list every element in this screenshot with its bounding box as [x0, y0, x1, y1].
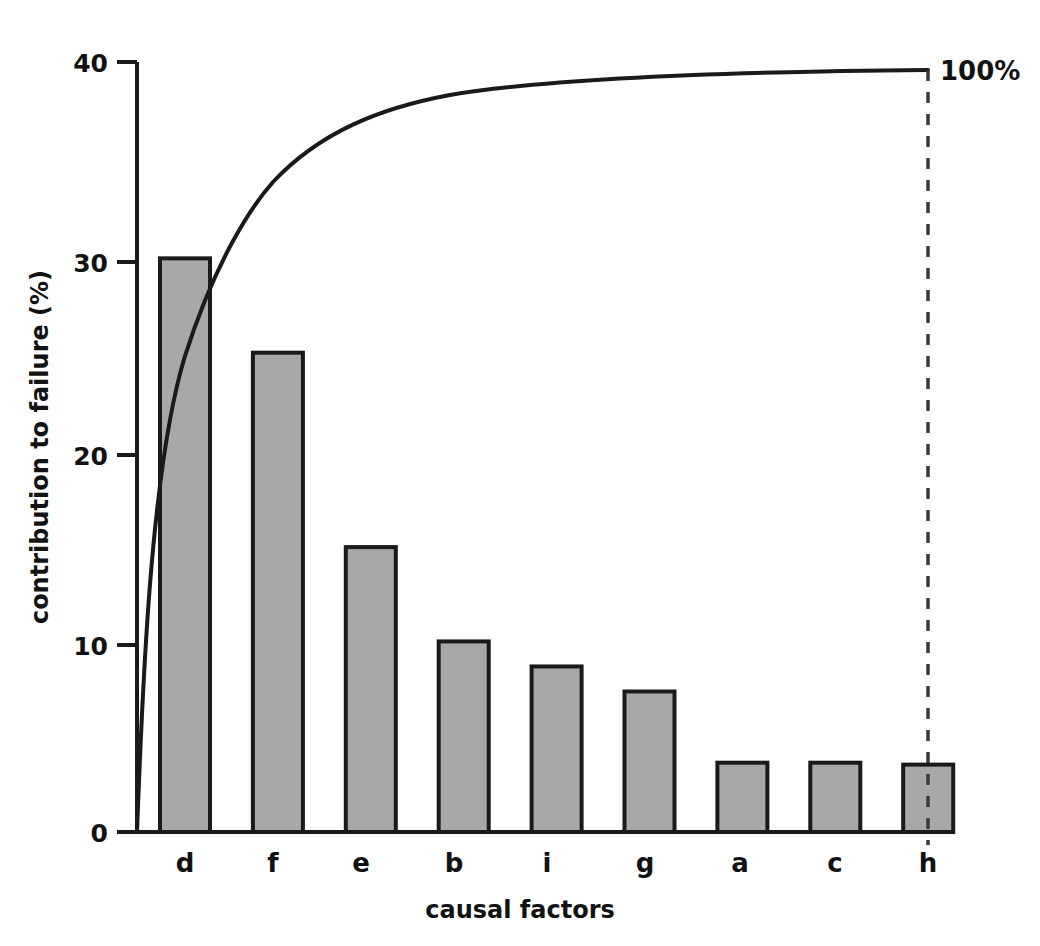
- y-tick-label-10: 10: [73, 632, 108, 661]
- bar-f: [253, 353, 303, 832]
- x-tick-label-d: d: [176, 848, 195, 878]
- x-tick-label-c: c: [827, 848, 842, 878]
- x-tick-label-f: f: [267, 848, 279, 878]
- chart-canvas: 40 30 20 10 0 contribution to failure (%…: [0, 0, 1040, 946]
- y-tick-label-30: 30: [73, 249, 108, 278]
- pareto-chart: 40 30 20 10 0 contribution to failure (%…: [0, 0, 1040, 946]
- x-tick-label-h: h: [919, 848, 938, 878]
- cumulative-100-percent-label: 100%: [940, 56, 1020, 86]
- x-tick-label-e: e: [352, 848, 370, 878]
- bar-g: [625, 691, 675, 832]
- x-tick-label-b: b: [445, 848, 464, 878]
- x-tick-label-i: i: [543, 848, 552, 878]
- x-tick-label-g: g: [636, 848, 655, 878]
- y-tick-label-20: 20: [73, 442, 108, 471]
- bar-c: [810, 763, 860, 832]
- bar-e: [346, 547, 396, 832]
- bar-a: [717, 763, 767, 832]
- x-axis-title: causal factors: [425, 896, 615, 924]
- bar-i: [532, 666, 582, 832]
- chart-background: [0, 0, 1040, 946]
- y-tick-label-0: 0: [91, 819, 108, 848]
- bar-b: [439, 641, 489, 832]
- y-axis-title: contribution to failure (%): [26, 270, 54, 624]
- bar-d: [160, 258, 210, 832]
- x-tick-label-a: a: [731, 848, 749, 878]
- y-tick-label-40: 40: [73, 49, 108, 78]
